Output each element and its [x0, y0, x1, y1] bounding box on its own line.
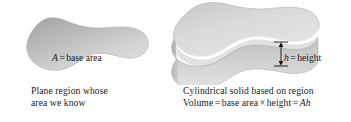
plane-region-panel: A=base area Plane region whose area we k…: [0, 0, 176, 122]
cylindrical-solid-panel: h=height Cylindrical solid based on regi…: [160, 0, 351, 122]
height-label: h=height: [284, 52, 321, 63]
caption-line-2: area we know: [31, 97, 108, 109]
height-text: height: [297, 52, 321, 63]
caption-line-1: Plane region whose: [31, 85, 108, 97]
base-area-text: base area: [66, 52, 101, 63]
formula-lhs: Volume: [183, 97, 213, 108]
volume-formula: Volume=base area×height=Ah: [183, 97, 314, 109]
plane-region-blob: [0, 0, 176, 85]
equals-sign-height: =: [289, 52, 297, 63]
variable-A: A: [52, 52, 58, 63]
formula-times: ×: [258, 97, 267, 108]
formula-var-h: h: [306, 97, 311, 108]
formula-term1: base area: [222, 97, 258, 108]
formula-term2: height: [267, 97, 292, 108]
cylindrical-solid-caption: Cylindrical solid based on region Volume…: [183, 85, 314, 109]
base-area-label: A=base area: [52, 52, 102, 63]
caption-line-1: Cylindrical solid based on region: [183, 85, 314, 97]
cylindrical-solid-body: [160, 0, 351, 85]
formula-equals-2: =: [291, 97, 300, 108]
figure-canvas: A=base area Plane region whose area we k…: [0, 0, 351, 122]
formula-equals: =: [213, 97, 222, 108]
plane-region-caption: Plane region whose area we know: [31, 85, 108, 109]
